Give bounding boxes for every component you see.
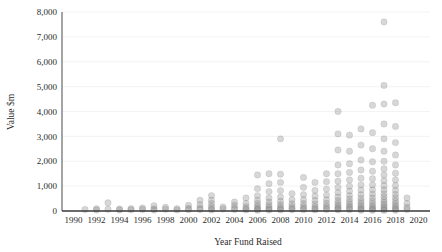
y-tick-label: 5,000 (37, 82, 58, 92)
data-point (266, 170, 272, 176)
x-tick-label: 2008 (272, 215, 291, 225)
x-tick-label: 2020 (410, 215, 429, 225)
data-point (369, 159, 375, 165)
data-point (323, 178, 329, 184)
x-tick-label: 2002 (203, 215, 221, 225)
data-point (128, 207, 134, 213)
data-point (335, 170, 341, 176)
data-point (346, 132, 352, 138)
data-point (381, 172, 387, 178)
x-tick-label: 1998 (157, 215, 176, 225)
data-point (381, 19, 387, 25)
data-point (277, 179, 283, 185)
y-tick-label: 0 (53, 206, 58, 216)
data-point (82, 206, 88, 212)
data-point (93, 207, 99, 213)
data-point (266, 207, 272, 213)
data-point (277, 207, 283, 213)
data-point (231, 206, 237, 212)
data-point (381, 158, 387, 164)
x-axis-title: Year Fund Raised (214, 237, 282, 247)
data-point (105, 200, 111, 206)
data-point (392, 123, 398, 129)
data-point (289, 207, 295, 213)
data-point (346, 169, 352, 175)
x-tick-label: 1992 (88, 215, 106, 225)
data-point (369, 175, 375, 181)
data-point (392, 139, 398, 145)
data-point (381, 136, 387, 142)
data-point (323, 170, 329, 176)
data-point (346, 148, 352, 154)
data-point (266, 180, 272, 186)
y-tick-label: 7,000 (37, 32, 58, 42)
data-point (277, 187, 283, 193)
data-point (358, 167, 364, 173)
data-point (369, 129, 375, 135)
x-tick-label: 2014 (341, 215, 360, 225)
data-point (392, 207, 398, 213)
data-point (139, 206, 145, 212)
data-point (335, 162, 341, 168)
x-tick-label: 2016 (364, 215, 383, 225)
data-point (335, 131, 341, 137)
data-point (392, 152, 398, 158)
x-tick-label: 2012 (318, 215, 336, 225)
data-point (381, 148, 387, 154)
data-point (392, 162, 398, 168)
chart-canvas: 01,0002,0003,0004,0005,0006,0007,0008,00… (0, 0, 442, 252)
data-point (358, 142, 364, 148)
data-point (185, 206, 191, 212)
x-tick-label: 2018 (387, 215, 406, 225)
data-point (381, 82, 387, 88)
data-point (369, 168, 375, 174)
data-point (300, 184, 306, 190)
data-point (254, 172, 260, 178)
data-point (358, 126, 364, 132)
y-tick-label: 2,000 (37, 156, 58, 166)
y-tick-label: 1,000 (37, 181, 58, 191)
data-point (266, 188, 272, 194)
data-point (369, 102, 375, 108)
data-point (312, 207, 318, 213)
data-point (381, 101, 387, 107)
data-point (277, 171, 283, 177)
data-point (392, 177, 398, 183)
data-point (243, 207, 249, 213)
data-point (346, 206, 352, 212)
x-tick-label: 2004 (226, 215, 245, 225)
data-point (312, 179, 318, 185)
data-point (197, 206, 203, 212)
x-tick-label: 2010 (295, 215, 314, 225)
data-point (392, 170, 398, 176)
data-point (300, 206, 306, 212)
data-point (174, 207, 180, 213)
x-tick-label: 2000 (180, 215, 199, 225)
data-point (254, 207, 260, 213)
x-tick-label: 1990 (65, 215, 84, 225)
y-axis-title: Value $m (6, 93, 16, 130)
data-point (289, 190, 295, 196)
data-point (346, 177, 352, 183)
y-tick-label: 6,000 (37, 57, 58, 67)
data-point (116, 207, 122, 213)
data-point (335, 147, 341, 153)
data-point (208, 207, 214, 213)
data-point (151, 207, 157, 213)
y-tick-label: 8,000 (37, 7, 58, 17)
data-point (381, 166, 387, 172)
x-tick-label: 1994 (111, 215, 130, 225)
data-point (369, 207, 375, 213)
data-point (300, 174, 306, 180)
data-point (358, 175, 364, 181)
data-point (254, 185, 260, 191)
scatter-chart: 01,0002,0003,0004,0005,0006,0007,0008,00… (0, 0, 442, 252)
data-point (312, 187, 318, 193)
x-tick-label: 2006 (249, 215, 268, 225)
data-point (346, 161, 352, 167)
data-point (335, 207, 341, 213)
y-tick-label: 3,000 (37, 132, 58, 142)
data-point (381, 121, 387, 127)
data-point (392, 100, 398, 106)
y-axis-tick-labels: 01,0002,0003,0004,0005,0006,0007,0008,00… (37, 7, 58, 216)
